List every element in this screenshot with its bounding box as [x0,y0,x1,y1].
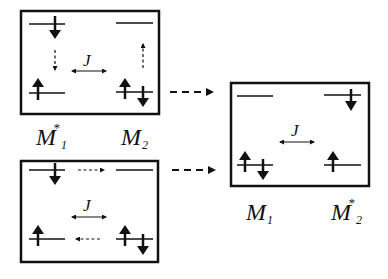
label-m2: M2 [121,125,148,149]
label-m2-excited: M*2 [331,200,362,224]
panel-right [231,83,369,186]
spin-up-arrow-icon [327,151,339,172]
spin-down-arrow-icon [49,163,61,185]
spin-up-arrow-icon [119,78,131,99]
coupling-label: J [83,52,91,69]
spin-up-arrow-icon [239,151,251,172]
coupling-label: J [291,122,299,139]
spin-up-arrow-icon [32,78,44,100]
label-m1: M1 [246,200,273,224]
coupling-label: J [83,197,91,214]
spin-down-arrow-icon [49,16,61,39]
label-m1-excited: M*1 [36,125,67,149]
spin-up-arrow-icon [119,225,131,246]
spin-up-arrow-icon [32,225,44,246]
spin-down-arrow-icon [257,159,269,180]
spin-down-arrow-icon [137,234,149,255]
spin-down-arrow-icon [137,86,149,107]
spin-down-arrow-icon [345,89,357,111]
